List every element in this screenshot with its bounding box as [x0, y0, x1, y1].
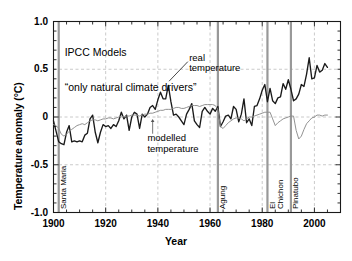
real-temperature-label-line2: temperature [189, 63, 240, 74]
chart-subtitle: “only natural climate drivers” [65, 82, 197, 94]
y-tick-label: -1.0 [10, 207, 48, 218]
y-tick-label: 0 [10, 111, 48, 122]
y-tick-label: -0.5 [10, 159, 48, 170]
y-tick-label: 1.0 [10, 16, 48, 27]
real-temperature-label: realtemperature [189, 53, 240, 74]
volcano-label: Agung [219, 185, 228, 208]
x-axis-label: Year [0, 236, 352, 248]
y-axis-label: Temperature anomaly (°C) [13, 82, 25, 210]
y-tick-label: 0.5 [10, 63, 48, 74]
chart-title-block: IPCC Models “only natural climate driver… [65, 24, 197, 118]
temperature-anomaly-chart: IPCC Models “only natural climate driver… [0, 0, 352, 261]
x-tick-label: 1940 [136, 218, 180, 229]
x-tick-label: 2000 [292, 218, 336, 229]
chart-title: IPCC Models [65, 47, 197, 59]
modelled-temperature-label: modelledtemperature [147, 133, 198, 154]
x-tick-label: 1980 [240, 218, 284, 229]
x-tick-label: 1900 [32, 218, 76, 229]
modelled-temperature-label-line2: temperature [147, 144, 198, 155]
volcano-label: Santa Maria [60, 165, 69, 208]
x-tick-label: 1960 [188, 218, 232, 229]
volcano-label: Pinatubo [292, 177, 301, 209]
x-tick-label: 1920 [84, 218, 128, 229]
volcano-label: Chichon [277, 179, 286, 208]
